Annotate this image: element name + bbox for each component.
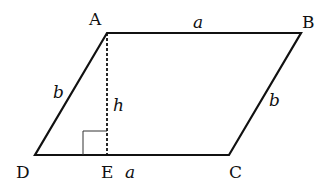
side-label-bc: b (269, 90, 280, 110)
parallelogram-abcd (35, 33, 301, 155)
right-angle-marker (83, 131, 107, 155)
vertex-label-d: D (16, 162, 30, 182)
vertex-label-b: B (302, 12, 315, 32)
parallelogram-diagram: A B C D E a a b b h (0, 0, 329, 191)
vertex-label-a: A (88, 9, 102, 29)
side-label-ad: b (53, 82, 64, 102)
height-label: h (113, 95, 124, 115)
vertex-label-e: E (101, 162, 113, 182)
side-label-dc: a (125, 162, 135, 182)
vertex-label-c: C (229, 162, 242, 182)
side-label-ab: a (193, 12, 203, 32)
